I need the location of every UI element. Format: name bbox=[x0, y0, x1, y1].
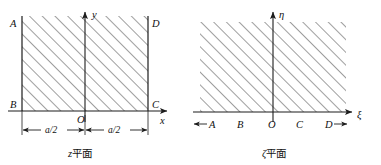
z-plane-caption: z平面 bbox=[67, 148, 92, 159]
figure-root: y x A B C D O a/2 a/2 z平面 bbox=[0, 0, 381, 165]
z-plane-y-axis-label: y bbox=[91, 9, 97, 20]
zeta-plane-label-B: B bbox=[237, 119, 244, 130]
zeta-plane-eta-axis-label: η bbox=[279, 9, 284, 20]
zeta-plane-caption-text: 平面 bbox=[266, 148, 286, 159]
panel-z-plane: y x A B C D O a/2 a/2 z平面 bbox=[8, 9, 167, 159]
z-plane-label-C: C bbox=[152, 99, 160, 110]
z-plane-dimension-label-left: a/2 bbox=[45, 125, 57, 135]
zeta-plane-xi-axis-label: ξ bbox=[357, 109, 362, 121]
z-plane-label-D: D bbox=[151, 18, 160, 29]
z-plane-dimension-label-right: a/2 bbox=[108, 125, 120, 135]
z-plane-caption-text: 平面 bbox=[72, 148, 92, 159]
zeta-plane-label-O: O bbox=[268, 119, 276, 130]
z-plane-label-O: O bbox=[77, 114, 85, 125]
panel-zeta-plane: η ξ A B O C D ζ平面 bbox=[193, 9, 362, 160]
zeta-plane-label-A: A bbox=[208, 119, 216, 130]
zeta-plane-caption: ζ平面 bbox=[262, 148, 286, 160]
zeta-plane-label-D: D bbox=[324, 119, 333, 130]
conformal-mapping-figure: y x A B C D O a/2 a/2 z平面 bbox=[0, 0, 381, 165]
zeta-plane-label-C: C bbox=[296, 119, 304, 130]
z-plane-x-axis-label: x bbox=[159, 115, 165, 126]
z-plane-label-B: B bbox=[10, 99, 17, 110]
z-plane-label-A: A bbox=[9, 18, 17, 29]
